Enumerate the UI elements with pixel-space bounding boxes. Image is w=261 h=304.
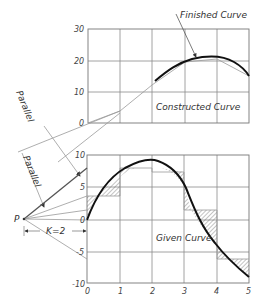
finished-curve-label: Finished Curve <box>180 10 247 20</box>
given-curve <box>87 160 249 277</box>
top-y-tick-20: 20 <box>74 57 84 66</box>
x-tick-0: 0 <box>85 287 90 296</box>
bottom-y-tick-5: 5 <box>80 183 85 192</box>
x-tick-3: 3 <box>182 287 187 296</box>
bottom-y-tick-0: 0 <box>80 216 85 225</box>
given-curve-chart: P K=2 10 5 0 -5 -10 0 1 2 3 4 5 Given Cu… <box>14 151 251 296</box>
parallel-label-2: Parallel <box>21 154 43 189</box>
finished-curve-leader <box>176 14 196 57</box>
constructed-curve-chart: 30 20 10 0 Constructed Curve Finished Cu… <box>74 10 249 128</box>
constructed-polyline <box>88 59 249 123</box>
graphical-integration-diagram: 30 20 10 0 Constructed Curve Finished Cu… <box>0 0 261 304</box>
x-tick-2: 2 <box>150 287 155 296</box>
constructed-curve-label: Constructed Curve <box>156 102 241 112</box>
bottom-y-tick-neg10: -10 <box>72 280 85 289</box>
pole-label: P <box>14 214 20 224</box>
parallel-label-1: Parallel <box>14 89 36 124</box>
pole-point <box>23 218 26 221</box>
bottom-y-tick-10: 10 <box>75 151 85 160</box>
bottom-grid <box>87 155 249 283</box>
mean-ordinate-steps <box>87 168 249 259</box>
x-tick-1: 1 <box>118 287 123 296</box>
x-tick-4: 4 <box>214 287 219 296</box>
top-y-tick-10: 10 <box>74 88 84 97</box>
bottom-y-tick-neg5: -5 <box>76 248 84 257</box>
bottom-frame <box>87 155 249 283</box>
hatched-areas <box>87 168 249 277</box>
x-tick-5: 5 <box>246 287 251 296</box>
k-label: K=2 <box>46 226 65 236</box>
top-y-tick-30: 30 <box>74 25 84 34</box>
given-curve-label: Given Curve <box>156 233 212 243</box>
